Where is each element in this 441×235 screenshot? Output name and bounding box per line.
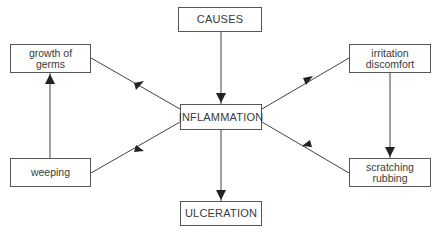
arrowhead-icon (216, 190, 226, 200)
node-ulceration: ULCERATION (180, 201, 262, 226)
edge-inflammation-ulceration (216, 130, 226, 201)
node-irritation-discomfort: irritation discomfort (349, 44, 431, 73)
node-causes: CAUSES (178, 7, 262, 32)
edge-inflammation-irritation (262, 58, 349, 109)
arrowhead-icon (45, 74, 55, 84)
edge-weeping-growth (45, 73, 55, 158)
node-weeping: weeping (10, 158, 91, 187)
arrowhead-icon (302, 140, 312, 147)
node-growth-of-germs: growth of germs (10, 44, 91, 73)
arrowhead-icon (216, 93, 226, 103)
arrowhead-icon (385, 147, 395, 157)
node-scratching-rubbing: scratching rubbing (349, 158, 431, 187)
edge-causes-inflammation (216, 32, 226, 104)
edge-irritation-scratching (385, 73, 395, 158)
arrowhead-icon (134, 81, 144, 90)
edge-inflammation-weeping (91, 122, 180, 173)
edge-scratching-inflammation (262, 122, 349, 173)
edge-growth-inflammation (91, 58, 180, 109)
node-inflammation: INFLAMMATION (180, 104, 262, 130)
